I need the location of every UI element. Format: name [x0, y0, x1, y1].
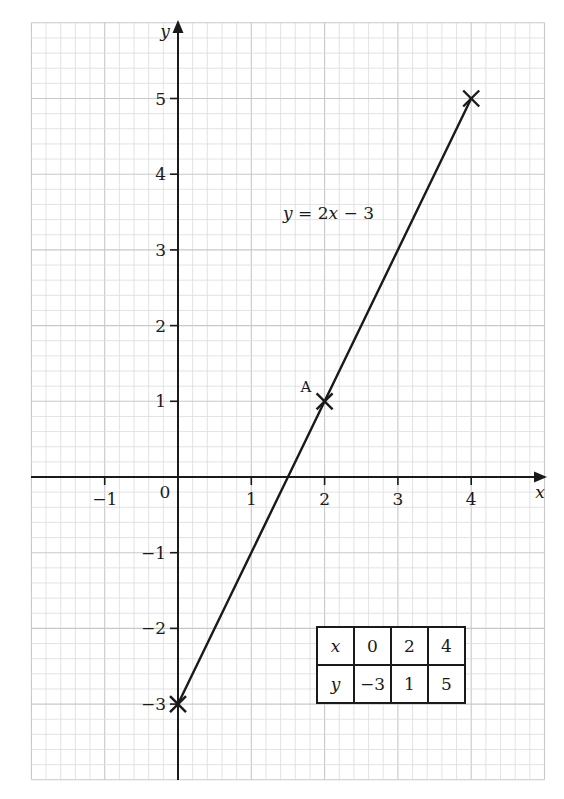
x-tick-label: 4 [466, 489, 477, 509]
y-axis-arrow-icon [173, 20, 184, 33]
y-axis-label: y [159, 21, 170, 41]
grid-paper [31, 23, 544, 780]
table-cell: 1 [404, 674, 415, 694]
x-tick-label: 3 [392, 489, 403, 509]
point-a-label: A [300, 378, 312, 396]
y-axis [173, 20, 184, 780]
table-cell: 4 [441, 636, 452, 656]
y-tick-label: −3 [141, 694, 166, 714]
y-tick-label: 4 [155, 164, 166, 184]
equation-tail: − 3 [338, 203, 374, 223]
table-header-y: y [330, 674, 341, 694]
origin-label: 0 [160, 482, 171, 502]
table-cell: 0 [367, 636, 378, 656]
x-axis-label: x [535, 482, 545, 502]
y-tick-label: 5 [155, 89, 166, 109]
y-tick-label: −2 [141, 618, 166, 638]
equation-x: x [328, 203, 338, 223]
equation-lhs: y [282, 203, 293, 223]
y-tick-label: 1 [155, 391, 166, 411]
equation-rhs: = 2 [293, 203, 329, 223]
x-tick-label: 1 [246, 489, 257, 509]
y-tick-label: 2 [155, 316, 166, 336]
table-cell: 5 [441, 674, 452, 694]
graph-figure: −1 0 1 2 3 4 5 4 3 2 1 −1 −2 −3 x y A y … [0, 0, 564, 799]
table-cell: −3 [360, 674, 385, 694]
y-tick-label: 3 [155, 240, 166, 260]
x-tick-label: −1 [92, 489, 117, 509]
equation-label: y = 2x − 3 [282, 203, 374, 223]
x-tick-label: 2 [319, 489, 330, 509]
values-table: x 0 2 4 y −3 1 5 [317, 627, 465, 703]
table-header-x: x [331, 636, 341, 656]
y-tick-label: −1 [141, 543, 166, 563]
table-cell: 2 [404, 636, 415, 656]
